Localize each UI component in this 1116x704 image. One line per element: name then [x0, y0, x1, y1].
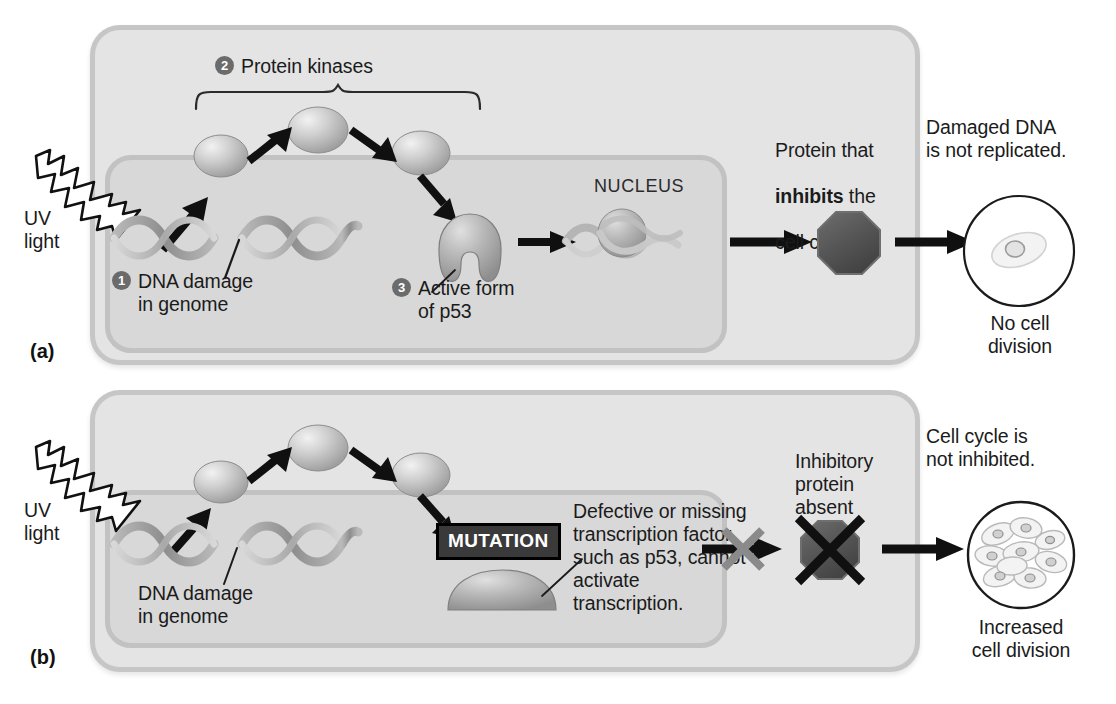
inhibitor-octagon-icon [817, 211, 881, 275]
panel-a-nucleus-label: NUCLEUS [594, 176, 684, 197]
panel-a-step-1-badge: 1 [112, 271, 131, 290]
panel-a-outcome-label: Damaged DNA is not replicated. [926, 116, 1066, 162]
panel-b-letter: (b) [30, 646, 56, 669]
dna-damage-break-icon [219, 546, 243, 586]
arrow-right-icon [880, 537, 966, 561]
cross-out-x-icon [791, 511, 869, 589]
inhibitor-line-1: Protein that [775, 139, 874, 161]
mutation-badge: MUTATION [436, 523, 561, 560]
panel-a-letter: (a) [30, 340, 54, 363]
protein-kinase-oval-icon [193, 134, 249, 178]
arrow-right-icon [348, 122, 402, 166]
arrow-right-icon [246, 445, 298, 487]
panel-b-dna-label: DNA damage in genome [138, 582, 253, 628]
panel-a-step-1-label: DNA damage in genome [138, 270, 253, 316]
panel-b-outcome-label: Cell cycle is not inhibited. [926, 425, 1035, 471]
chromatin-histone-icon [564, 205, 694, 267]
panel-a-step-2-badge: 2 [215, 56, 234, 75]
proliferating-cells-icon [966, 500, 1076, 610]
arrow-right-icon [348, 442, 402, 486]
figure-root: (a) UV light 2 Protein kinases [0, 0, 1116, 704]
cross-out-x-icon [718, 524, 768, 574]
panel-a-step-3-label: Active form of p53 [418, 277, 514, 323]
arrow-right-icon [246, 125, 298, 167]
single-cell-icon [962, 194, 1076, 308]
panel-b-outcome-caption: Increased cell division [946, 616, 1096, 662]
panel-a-outcome-caption: No cell division [964, 312, 1076, 358]
inhibitor-bold-word: inhibits [775, 185, 844, 207]
panel-b-absent-label: Inhibitory protein absent [795, 450, 873, 519]
panel-a-step-2-label: Protein kinases [241, 55, 373, 78]
inhibitor-line-1-tail: the [844, 185, 876, 207]
panel-b-uv-label: UV light [24, 499, 59, 545]
panel-a-uv-label: UV light [24, 207, 59, 253]
panel-a-step-3-badge: 3 [392, 278, 411, 297]
protein-kinase-oval-icon [193, 460, 249, 504]
